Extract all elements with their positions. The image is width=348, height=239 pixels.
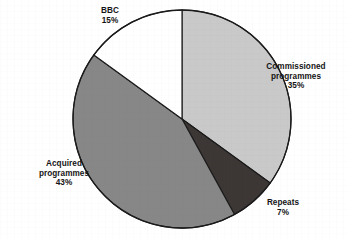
- slice-label-acquired: Acquired programmes 43%: [22, 159, 106, 188]
- slice-label-commissioned-value: 35%: [250, 81, 342, 91]
- pie-slices-group: [73, 10, 291, 228]
- slice-label-bbc-name: BBC: [88, 6, 132, 16]
- slice-label-commissioned: Commissioned programmes 35%: [250, 62, 342, 91]
- slice-label-repeats-name: Repeats: [252, 198, 314, 208]
- slice-label-acquired-value: 43%: [22, 178, 106, 188]
- slice-label-commissioned-name-1: Commissioned: [250, 62, 342, 72]
- slice-label-acquired-name-1: Acquired: [22, 159, 106, 169]
- pie-chart: BBC 15% Commissioned programmes 35% Acqu…: [0, 0, 348, 239]
- slice-label-commissioned-name-2: programmes: [250, 72, 342, 82]
- slice-label-bbc: BBC 15%: [88, 6, 132, 25]
- slice-label-repeats: Repeats 7%: [252, 198, 314, 217]
- slice-label-bbc-value: 15%: [88, 16, 132, 26]
- slice-label-repeats-value: 7%: [252, 208, 314, 218]
- slice-label-acquired-name-2: programmes: [22, 169, 106, 179]
